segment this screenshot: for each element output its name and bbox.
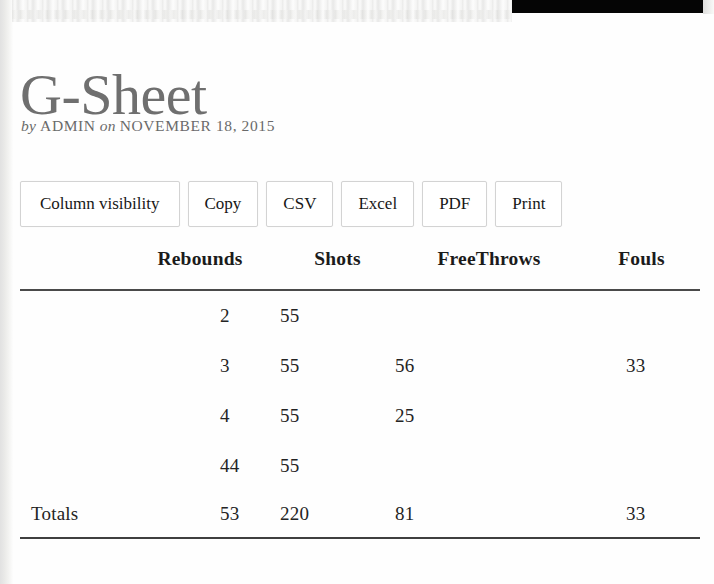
cell-rebounds: 44 <box>120 441 280 491</box>
byline-date: NOVEMBER 18, 2015 <box>120 117 275 134</box>
table-footer: Totals 53 220 81 33 <box>20 491 700 538</box>
table-body: 2 55 3 55 56 33 4 55 25 <box>20 290 700 491</box>
cell-fouls <box>583 441 700 491</box>
stats-table: Rebounds Shots FreeThrows Fouls 2 55 3 <box>20 248 700 539</box>
cell-rebounds: 4 <box>120 391 280 441</box>
totals-fouls: 33 <box>583 491 700 538</box>
cell-label <box>20 441 120 491</box>
column-visibility-button[interactable]: Column visibility <box>20 181 180 227</box>
column-header-fouls[interactable]: Fouls <box>583 248 700 290</box>
cell-freethrows: 25 <box>395 391 583 441</box>
pdf-button[interactable]: PDF <box>422 181 487 227</box>
byline-by-word: by <box>21 117 36 134</box>
cell-freethrows <box>395 290 583 341</box>
post-content: G-Sheet by ADMIN on NOVEMBER 18, 2015 Co… <box>0 0 714 584</box>
table-row: 4 55 25 <box>20 391 700 441</box>
cell-label <box>20 341 120 391</box>
print-button[interactable]: Print <box>495 181 562 227</box>
table-header: Rebounds Shots FreeThrows Fouls <box>20 248 700 290</box>
table-header-row: Rebounds Shots FreeThrows Fouls <box>20 248 700 290</box>
table-row: 2 55 <box>20 290 700 341</box>
table-totals-row: Totals 53 220 81 33 <box>20 491 700 538</box>
cell-shots: 55 <box>280 341 395 391</box>
column-header-rebounds[interactable]: Rebounds <box>120 248 280 290</box>
byline-on-word: on <box>100 117 116 134</box>
cell-label <box>20 290 120 341</box>
cell-label <box>20 391 120 441</box>
cell-freethrows: 56 <box>395 341 583 391</box>
totals-shots: 220 <box>280 491 395 538</box>
totals-freethrows: 81 <box>395 491 583 538</box>
cell-freethrows <box>395 441 583 491</box>
byline-author: ADMIN <box>40 117 96 134</box>
document-page: G-Sheet by ADMIN on NOVEMBER 18, 2015 Co… <box>0 0 714 584</box>
table-row: 44 55 <box>20 441 700 491</box>
column-header-freethrows[interactable]: FreeThrows <box>395 248 583 290</box>
copy-button[interactable]: Copy <box>188 181 259 227</box>
cell-fouls <box>583 391 700 441</box>
cell-shots: 55 <box>280 290 395 341</box>
csv-button[interactable]: CSV <box>266 181 333 227</box>
cell-rebounds: 3 <box>120 341 280 391</box>
datatable-buttons-toolbar: Column visibility Copy CSV Excel PDF Pri… <box>20 181 562 227</box>
table-row: 3 55 56 33 <box>20 341 700 391</box>
totals-label: Totals <box>20 491 120 538</box>
post-byline: by ADMIN on NOVEMBER 18, 2015 <box>21 117 275 135</box>
column-header-label[interactable] <box>20 248 120 290</box>
cell-fouls: 33 <box>583 341 700 391</box>
cell-fouls <box>583 290 700 341</box>
cell-shots: 55 <box>280 441 395 491</box>
cell-rebounds: 2 <box>120 290 280 341</box>
column-header-shots[interactable]: Shots <box>280 248 395 290</box>
excel-button[interactable]: Excel <box>341 181 414 227</box>
cell-shots: 55 <box>280 391 395 441</box>
totals-rebounds: 53 <box>120 491 280 538</box>
